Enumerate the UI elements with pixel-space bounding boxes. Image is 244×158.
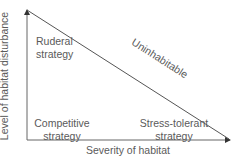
competitive-strategy-label: Competitive strategy (32, 117, 92, 143)
ruderal-strategy-label: Ruderal strategy (36, 35, 73, 61)
y-axis-label: Level of habitat disturbance (0, 12, 10, 140)
competitive-line2: strategy (32, 130, 92, 143)
stress-tolerant-line2: strategy (133, 130, 215, 143)
competitive-line1: Competitive (32, 117, 92, 130)
ruderal-line1: Ruderal (36, 35, 73, 48)
x-axis-label: Severity of habitat (86, 144, 170, 156)
stress-tolerant-line1: Stress-tolerant (133, 117, 215, 130)
ruderal-line2: strategy (36, 48, 73, 61)
stress-tolerant-strategy-label: Stress-tolerant strategy (133, 117, 215, 143)
